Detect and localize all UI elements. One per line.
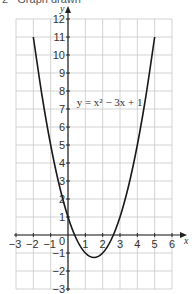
quadratic-graph: xy −3−2−1123456−3−2−11234567891011120 y …	[0, 0, 195, 294]
x-axis-label: x	[183, 235, 189, 246]
x-tick-label: −2	[26, 238, 39, 250]
y-tick-label: −1	[52, 247, 65, 259]
y-tick-label: 11	[54, 31, 65, 43]
equation-label: y = x² − 3x + 1	[77, 96, 143, 108]
y-tick-label: 10	[53, 49, 65, 61]
y-axis-arrow-icon	[65, 6, 71, 13]
x-tick-label: 6	[169, 238, 175, 250]
x-tick-label: 2	[100, 238, 106, 250]
y-tick-label: 9	[59, 67, 65, 79]
y-tick-label: 4	[59, 157, 65, 169]
x-tick-label: −3	[9, 238, 22, 250]
y-tick-label: 8	[59, 85, 65, 97]
y-tick-label: 7	[59, 103, 65, 115]
y-tick-label: 6	[59, 121, 65, 133]
y-tick-label: 5	[59, 139, 65, 151]
x-tick-label: 5	[152, 238, 158, 250]
x-tick-label: 3	[117, 238, 123, 250]
y-tick-label: 12	[53, 13, 65, 25]
y-tick-label: −2	[52, 265, 65, 277]
grid-lines	[16, 19, 172, 289]
y-tick-label: −3	[52, 283, 65, 294]
x-tick-label: 4	[134, 238, 140, 250]
parabola-curve	[33, 37, 154, 258]
origin-label: 0	[59, 235, 65, 247]
x-tick-label: 1	[82, 238, 88, 250]
y-tick-label: 1	[59, 211, 65, 223]
